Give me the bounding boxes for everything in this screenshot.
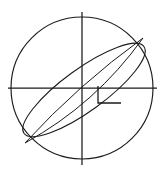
tilted-ellipse bbox=[12, 30, 156, 151]
inner-arc-lower bbox=[25, 38, 143, 143]
geometric-line-drawing bbox=[0, 0, 165, 176]
inner-arc-upper bbox=[25, 38, 143, 143]
figure-container bbox=[0, 0, 165, 176]
